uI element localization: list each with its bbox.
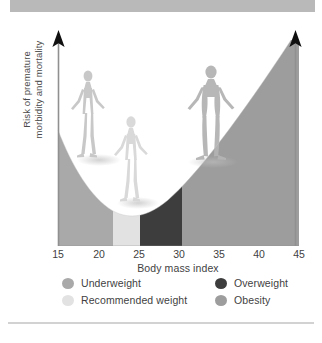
legend-swatch-recommended-weight bbox=[62, 295, 74, 306]
chart-legend: Underweight Recommended weight Overweigh… bbox=[60, 276, 310, 310]
legend-item-overweight: Overweight bbox=[215, 276, 288, 290]
underweight-figure bbox=[71, 70, 105, 157]
obese-figure-shadow bbox=[188, 156, 238, 168]
chart-canvas bbox=[0, 14, 322, 246]
x-axis-label: Body mass index bbox=[0, 262, 322, 274]
x-tick-label: 25 bbox=[133, 248, 145, 260]
legend-label-recommended-weight: Recommended weight bbox=[81, 294, 187, 306]
y-axis-label: Risk of premature morbidity and mortalit… bbox=[21, 0, 44, 185]
legend-label-overweight: Overweight bbox=[234, 277, 288, 289]
bottom-divider-rule bbox=[8, 322, 314, 324]
legend-item-obesity: Obesity bbox=[215, 293, 270, 307]
x-axis-tick-labels: 15 20 25 30 35 40 45 bbox=[0, 248, 322, 262]
x-axis-label-text: Body mass index bbox=[137, 262, 218, 274]
risk-vs-bmi-chart bbox=[0, 14, 322, 246]
x-tick-label: 15 bbox=[52, 248, 64, 260]
legend-item-recommended-weight: Recommended weight bbox=[62, 293, 187, 307]
y-axis-label-line-1: Risk of premature bbox=[21, 0, 33, 185]
legend-swatch-underweight bbox=[62, 278, 74, 289]
legend-item-underweight: Underweight bbox=[62, 276, 141, 290]
x-tick-label: 40 bbox=[253, 248, 265, 260]
figure-panel: Risk of premature morbidity and mortalit… bbox=[0, 0, 322, 343]
legend-label-obesity: Obesity bbox=[234, 294, 270, 306]
y-axis-label-line-2: morbidity and mortality bbox=[32, 0, 44, 185]
x-tick-label: 45 bbox=[293, 248, 305, 260]
x-tick-label: 30 bbox=[173, 248, 185, 260]
band-obesity bbox=[182, 32, 299, 246]
x-tick-label: 20 bbox=[93, 248, 105, 260]
x-tick-label: 35 bbox=[213, 248, 225, 260]
band-overweight bbox=[140, 32, 182, 246]
legend-swatch-overweight bbox=[215, 278, 227, 289]
top-decoration-bar bbox=[10, 0, 315, 12]
legend-swatch-obesity bbox=[215, 295, 227, 306]
legend-label-underweight: Underweight bbox=[81, 277, 141, 289]
